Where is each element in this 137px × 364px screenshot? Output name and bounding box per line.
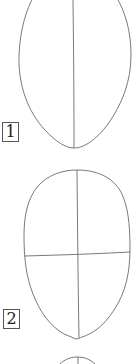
step-2-head-outline	[24, 170, 130, 339]
vertical-guide-line	[73, 0, 74, 148]
step-3-head-outline	[60, 357, 95, 364]
egg-outline-top	[60, 357, 95, 364]
step-2-label: 2	[3, 309, 20, 329]
step-1-head-outline	[19, 0, 131, 148]
egg-outline	[19, 0, 131, 148]
diagram-canvas	[0, 0, 137, 364]
step-1-label: 1	[2, 122, 19, 142]
